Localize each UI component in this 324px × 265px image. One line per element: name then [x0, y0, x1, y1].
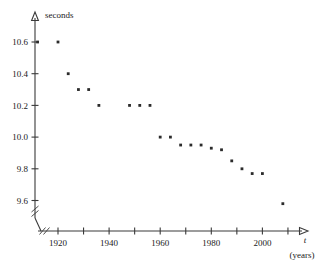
data-point — [67, 72, 70, 75]
data-point — [241, 167, 244, 170]
y-tick-label: 10.2 — [12, 101, 28, 111]
x-tick-label: 1960 — [151, 238, 170, 248]
y-tick-label: 9.6 — [17, 196, 29, 206]
data-point — [149, 104, 152, 107]
x-tick-label: 2000 — [253, 238, 272, 248]
y-tick-label-group: 9.69.810.010.210.410.6 — [12, 37, 28, 206]
data-point — [200, 144, 203, 147]
x-tick-label: 1920 — [49, 238, 68, 248]
y-axis-title: seconds — [45, 10, 74, 20]
data-point — [36, 41, 39, 44]
data-point-group — [36, 41, 284, 205]
data-point — [251, 172, 254, 175]
data-point — [281, 202, 284, 205]
data-point — [159, 136, 162, 139]
data-point — [210, 147, 213, 150]
data-point — [77, 88, 80, 91]
data-point — [57, 41, 60, 44]
data-point — [138, 104, 141, 107]
chart-canvas: 9.69.810.010.210.410.6 19201940196019802… — [0, 0, 324, 265]
scatter-chart: 9.69.810.010.210.410.6 19201940196019802… — [0, 0, 324, 265]
data-point — [128, 104, 131, 107]
y-tick-label: 10.4 — [12, 69, 28, 79]
x-axis-title: t — [304, 235, 307, 245]
data-point — [97, 104, 100, 107]
y-tick-label: 10.6 — [12, 37, 28, 47]
data-point — [179, 144, 182, 147]
data-point — [169, 136, 172, 139]
x-tick-label-group: 19201940196019802000 — [49, 238, 272, 248]
y-tick-label: 9.8 — [17, 164, 29, 174]
x-axis — [35, 218, 308, 235]
x-tick-label: 1940 — [100, 238, 119, 248]
x-axis-units-label: (years) — [290, 250, 315, 260]
y-tick-label: 10.0 — [12, 132, 28, 142]
data-point — [87, 88, 90, 91]
x-tick-label: 1980 — [202, 238, 221, 248]
axis-corner-connector — [35, 218, 41, 231]
data-point — [189, 144, 192, 147]
data-point — [261, 172, 264, 175]
data-point — [230, 159, 233, 162]
data-point — [220, 148, 223, 151]
